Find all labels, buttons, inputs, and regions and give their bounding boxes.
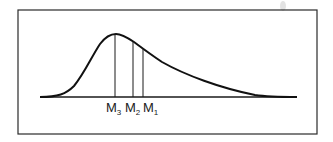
skewed-distribution-diagram: M3 M2 M1 <box>0 0 333 142</box>
diagram-frame <box>18 10 317 134</box>
label-m1: M1 <box>143 100 159 117</box>
distribution-curve <box>40 34 297 97</box>
label-m2: M2 <box>125 100 141 117</box>
label-m3: M3 <box>106 100 122 117</box>
